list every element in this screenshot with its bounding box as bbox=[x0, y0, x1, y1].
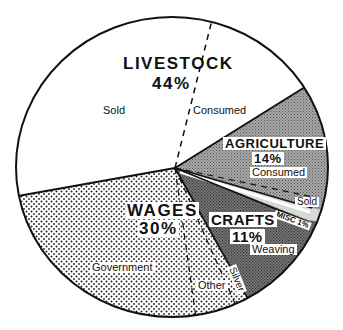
wages-pct: 30% bbox=[138, 220, 179, 237]
livestock-label: LIVESTOCK bbox=[123, 55, 233, 72]
crafts-weaving-label: Weaving bbox=[250, 244, 297, 255]
pie-chart bbox=[0, 0, 343, 330]
agriculture-label: AGRICULTURE bbox=[223, 137, 326, 150]
crafts-label: CRAFTS bbox=[209, 212, 277, 227]
livestock-pct: 44% bbox=[152, 75, 191, 92]
livestock-sold-label: Sold bbox=[103, 105, 125, 116]
agriculture-pct: 14% bbox=[252, 152, 284, 165]
agriculture-sold-label: Sold bbox=[295, 197, 319, 207]
crafts-pct: 11% bbox=[230, 229, 265, 244]
livestock-consumed-label: Consumed bbox=[193, 105, 246, 116]
wages-label: WAGES bbox=[126, 202, 199, 219]
wages-other-label: Other bbox=[196, 280, 228, 291]
wages-government-label: Government bbox=[90, 262, 155, 273]
agriculture-consumed-label: Consumed bbox=[250, 167, 307, 178]
